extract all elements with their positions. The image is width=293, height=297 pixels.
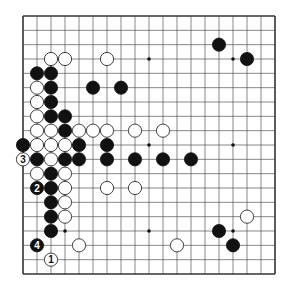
stone-circle [184,153,197,166]
stone-circle [44,95,57,108]
stone-circle [58,110,71,123]
black-stone [58,124,71,137]
move-number-label: 3 [20,154,26,165]
white-stone [30,110,43,123]
black-stone [44,181,57,194]
white-stone [30,95,43,108]
stone-circle [30,153,43,166]
black-stone [30,153,43,166]
star-point [231,57,235,61]
stone-circle [72,138,85,151]
move-number-label: 2 [34,183,40,194]
black-stone [58,110,71,123]
star-point [63,229,67,233]
star-point [231,229,235,233]
star-point [147,57,151,61]
stone-circle [44,110,57,123]
white-stone [44,153,57,166]
white-stone [156,124,169,137]
white-stone [100,181,113,194]
stone-circle [226,239,239,252]
stone-circle [44,153,57,166]
stone-circle [240,52,253,65]
white-stone [58,138,71,151]
black-stone [72,138,85,151]
stone-circle [30,110,43,123]
stone-circle [44,196,57,209]
stone-circle [86,124,99,137]
white-stone [72,239,85,252]
white-stone [30,138,43,151]
go-board: 3241 [0,0,293,297]
black-stone [44,67,57,80]
stone-circle [30,167,43,180]
black-stone [184,153,197,166]
white-stone [58,196,71,209]
stone-circle [156,153,169,166]
white-stone [30,81,43,94]
stone-circle [30,138,43,151]
stone-circle [212,224,225,237]
stone-circle [58,124,71,137]
white-stone [128,124,141,137]
black-stone-move-4: 4 [30,239,43,252]
black-stone [44,224,57,237]
stone-circle [100,124,113,137]
stone-circle [58,52,71,65]
stone-circle [44,181,57,194]
stone-circle [114,81,127,94]
black-stone [100,153,113,166]
stone-circle [72,153,85,166]
white-stone [58,181,71,194]
star-point [147,229,151,233]
stone-circle [44,81,57,94]
black-stone [44,167,57,180]
stone-circle [44,167,57,180]
stone-circle [72,239,85,252]
stone-circle [44,138,57,151]
stone-circle [86,81,99,94]
white-stone [58,210,71,223]
move-number-label: 4 [34,240,40,251]
star-point [147,143,151,147]
stone-circle [58,138,71,151]
black-stone [44,110,57,123]
black-stone [156,153,169,166]
black-stone-move-2: 2 [30,181,43,194]
stone-circle [44,224,57,237]
stone-circle [72,124,85,137]
stone-circle [30,67,43,80]
stone-circle [212,38,225,51]
white-stone [30,124,43,137]
white-stone [44,138,57,151]
stone-circle [30,81,43,94]
stone-circle [44,210,57,223]
black-stone [44,210,57,223]
stone-circle [170,239,183,252]
black-stone [114,81,127,94]
white-stone [44,52,57,65]
stone-circle [58,153,71,166]
white-stone [100,124,113,137]
black-stone [30,67,43,80]
stone-circle [100,138,113,151]
black-stone [100,138,113,151]
black-stone [226,239,239,252]
stone-circle [44,124,57,137]
stone-circle [44,67,57,80]
stone-circle [58,210,71,223]
white-stone [100,52,113,65]
stone-circle [58,196,71,209]
black-stone [212,38,225,51]
stone-circle [128,124,141,137]
stone-circle [156,124,169,137]
black-stone [58,153,71,166]
stone-circle [30,95,43,108]
white-stone [128,181,141,194]
white-stone [170,239,183,252]
black-stone [86,81,99,94]
white-stone [44,124,57,137]
black-stone [128,153,141,166]
black-stone [16,138,29,151]
white-stone-move-3: 3 [16,153,29,166]
